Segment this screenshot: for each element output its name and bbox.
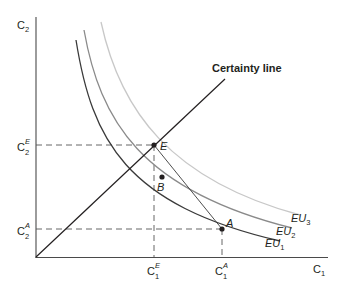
eu1-label: EU1 (265, 237, 284, 252)
certainty-line-label: Certainty line (212, 62, 282, 74)
point-a (219, 226, 224, 231)
svg-text:C: C (17, 225, 25, 237)
svg-text:1: 1 (155, 272, 159, 281)
svg-text:2: 2 (25, 148, 29, 157)
svg-text:E: E (25, 137, 31, 146)
eu2-curve (84, 30, 292, 228)
eu3-label: EU3 (291, 212, 310, 227)
point-e (151, 142, 156, 147)
label-a: A (225, 217, 233, 229)
svg-text:2: 2 (25, 232, 29, 241)
svg-text:C: C (147, 265, 155, 277)
tick-c1e: C E 1 (147, 261, 161, 281)
label-b: B (157, 181, 164, 193)
tick-c2e: C E 2 (17, 137, 31, 157)
label-e: E (160, 140, 168, 152)
tick-c2a: C A 2 (17, 221, 30, 241)
expected-utility-diagram: E B A Certainty line EU3 EU2 EU1 C2 C1 C… (0, 0, 341, 290)
eu3-curve (101, 22, 300, 215)
point-b (159, 174, 164, 179)
svg-text:E: E (155, 261, 161, 270)
svg-text:C: C (215, 265, 223, 277)
tick-c1a: C A 1 (215, 261, 228, 281)
svg-text:A: A (24, 221, 30, 230)
certainty-line (36, 79, 225, 257)
y-axis-label: C2 (17, 19, 29, 34)
svg-text:C: C (17, 141, 25, 153)
x-axis-label: C1 (313, 263, 325, 278)
svg-text:1: 1 (223, 272, 227, 281)
svg-text:A: A (222, 261, 228, 270)
